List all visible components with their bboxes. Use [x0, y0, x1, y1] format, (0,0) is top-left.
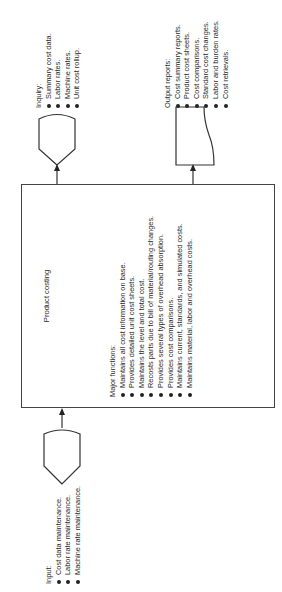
function-item: Provides cost comparisons. — [166, 216, 176, 397]
function-item: Provides detailed unit cost sheets. — [127, 216, 137, 397]
output-list: Cost summary reports. Product cost sheet… — [173, 20, 231, 108]
inquiry-terminal-icon — [39, 107, 77, 165]
function-item: Maintains all cost information on base. — [118, 216, 128, 397]
inquiry-item: Summary cost data. — [44, 33, 54, 108]
function-item: Maintains material, labor and overhead c… — [185, 216, 195, 397]
input-list: Cost data maintenance. Labor rate mainte… — [54, 486, 83, 584]
function-item: Maintains current, standards, and simula… — [175, 216, 185, 397]
inquiry-label-block: Inquiry: Summary cost data. Labor rates.… — [34, 33, 82, 108]
inquiry-heading: Inquiry: — [34, 33, 44, 108]
output-item: Cost retrievals. — [221, 20, 231, 108]
output-item: Cost summary reports. — [173, 20, 183, 108]
output-item: Cost comparisons. — [192, 20, 202, 108]
output-item: Product cost sheets. — [182, 20, 192, 108]
input-item: Machine rate maintenance. — [73, 486, 83, 584]
process-functions: Major functions: Maintains all cost info… — [108, 216, 194, 397]
process-box-product-costing: Product costing Major functions: Maintai… — [21, 184, 275, 408]
output-heading: Output reports: — [163, 20, 173, 108]
process-title: Product costing — [42, 185, 51, 407]
functions-list: Maintains all cost information on base. … — [118, 216, 195, 397]
input-item: Labor rate maintenance. — [63, 486, 73, 584]
diagram-canvas: Input: Cost data maintenance. Labor rate… — [0, 0, 282, 592]
inquiry-item: Labor rates. — [53, 33, 63, 108]
input-terminal-icon — [44, 404, 84, 484]
output-item: Labor and burden rates. — [211, 20, 221, 108]
function-item: Provides several types of overhead absor… — [156, 216, 166, 397]
output-label-block: Output reports: Cost summary reports. Pr… — [163, 20, 230, 108]
function-item: Recosts parts due to bill of material/ro… — [146, 216, 156, 397]
function-item: Maintains the level and total cost. — [137, 216, 147, 397]
input-heading: Input: — [44, 486, 54, 584]
input-item: Cost data maintenance. — [54, 486, 64, 584]
inquiry-item: Machine rates. — [63, 33, 73, 108]
inquiry-item: Unit cost rollup. — [72, 33, 82, 108]
input-label-block: Input: Cost data maintenance. Labor rate… — [44, 486, 82, 584]
output-item: Standard cost changes. — [201, 20, 211, 108]
functions-heading: Major functions: — [108, 216, 118, 397]
output-document-icon — [176, 105, 216, 165]
inquiry-list: Summary cost data. Labor rates. Machine … — [44, 33, 82, 108]
